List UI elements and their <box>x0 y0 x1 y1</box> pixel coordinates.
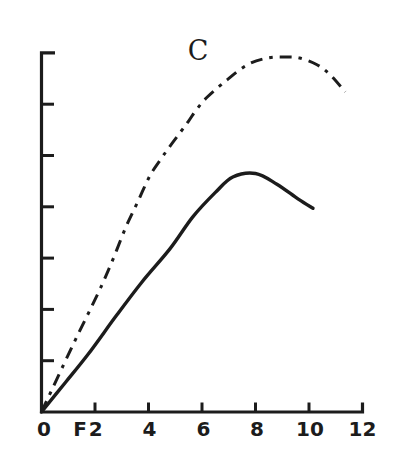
figure: C 0F24681012 <box>0 0 398 459</box>
axes <box>42 53 363 412</box>
line-chart-canvas <box>0 0 398 459</box>
curve-label-c: C <box>188 37 209 64</box>
series-dash-dot <box>42 57 346 412</box>
x-tick-label-10: 10 <box>296 419 324 439</box>
x-tick-label-8: 8 <box>250 419 264 439</box>
series-solid <box>42 173 314 412</box>
x-tick-label-F2: F2 <box>73 419 105 439</box>
x-tick-label-0: 0 <box>37 419 51 439</box>
x-tick-label-4: 4 <box>143 419 157 439</box>
x-tick-label-12: 12 <box>349 419 377 439</box>
x-tick-label-6: 6 <box>197 419 211 439</box>
